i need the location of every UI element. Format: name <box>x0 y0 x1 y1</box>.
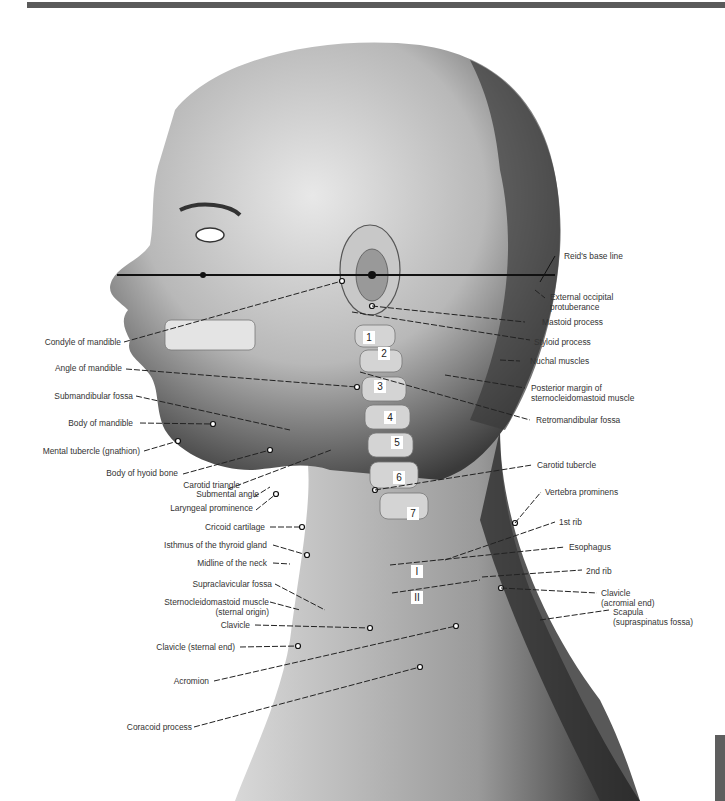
rib-1-number: I <box>411 565 423 578</box>
label-nuchal-muscles: Nuchal muscles <box>530 356 589 366</box>
label-clavicle-acromial-end: Clavicle (acromial end) <box>601 588 655 608</box>
label-body-of-mandible: Body of mandible <box>68 418 133 428</box>
vertebra-c7-number: 7 <box>407 507 419 520</box>
label-laryngeal-prominence: Laryngeal prominence <box>170 503 253 513</box>
vertebra-c2-number: 2 <box>378 347 390 360</box>
vertebra-c5-number: 5 <box>391 436 403 449</box>
label-scapula-line1: Scapula <box>613 607 693 617</box>
label-clav-acr-line1: Clavicle <box>601 588 655 598</box>
label-mastoid-process: Mastoid process <box>542 317 603 327</box>
label-styloid-process: Styloid process <box>534 337 591 347</box>
label-submandibular-fossa: Submandibular fossa <box>54 391 133 401</box>
label-cricoid-cartilage: Cricoid cartilage <box>205 522 265 532</box>
label-mental-tubercle: Mental tubercle (gnathion) <box>43 446 140 456</box>
label-scm-line1: Sternocleidomastoid muscle <box>164 597 269 607</box>
label-esophagus: Esophagus <box>569 542 611 552</box>
label-carotid-tubercle: Carotid tubercle <box>537 460 596 470</box>
label-scm-line2: (sternal origin) <box>164 607 269 617</box>
rib-2-number: II <box>411 591 423 604</box>
label-acromion: Acromion <box>174 676 209 686</box>
label-supraclavicular-fossa: Supraclavicular fossa <box>192 579 272 589</box>
label-clavicle: Clavicle <box>221 620 250 630</box>
label-angle-of-mandible: Angle of mandible <box>55 363 122 373</box>
label-clavicle-sternal-end: Clavicle (sternal end) <box>156 642 235 652</box>
vertebra-c3-number: 3 <box>374 380 386 393</box>
label-post-margin-line1: Posterior margin of <box>531 383 634 393</box>
label-reids-base-line: Reid's base line <box>564 251 623 261</box>
vertebra-c1-number: 1 <box>363 331 375 344</box>
vertebra-c6-number: 6 <box>393 471 405 484</box>
label-coracoid-process: Coracoid process <box>127 722 192 732</box>
label-post-margin-line2: sternocleidomastoid muscle <box>531 393 634 403</box>
label-midline-of-neck: Midline of the neck <box>197 558 267 568</box>
label-external-occipital-protuberance: External occipital protuberance <box>550 292 613 312</box>
label-1st-rib: 1st rib <box>559 517 582 527</box>
label-retromandibular-fossa: Retromandibular fossa <box>536 415 620 425</box>
label-posterior-margin-scm: Posterior margin of sternocleidomastoid … <box>531 383 634 403</box>
label-scapula-supraspinatus-fossa: Scapula (supraspinatus fossa) <box>613 607 693 627</box>
label-scapula-line2: (supraspinatus fossa) <box>613 617 693 627</box>
label-eop-line2: protuberance <box>550 302 613 312</box>
label-submental-angle: Submental angle <box>196 489 259 499</box>
vertebra-c4-number: 4 <box>384 411 396 424</box>
label-condyle-of-mandible: Condyle of mandible <box>45 337 121 347</box>
label-vertebra-prominens: Vertebra prominens <box>545 487 618 497</box>
label-scm-sternal-origin: Sternocleidomastoid muscle (sternal orig… <box>164 597 269 617</box>
label-isthmus-thyroid-gland: Isthmus of the thyroid gland <box>164 540 267 550</box>
label-2nd-rib: 2nd rib <box>586 566 612 576</box>
label-eop-line1: External occipital <box>550 292 613 302</box>
label-body-of-hyoid-bone: Body of hyoid bone <box>106 468 178 478</box>
